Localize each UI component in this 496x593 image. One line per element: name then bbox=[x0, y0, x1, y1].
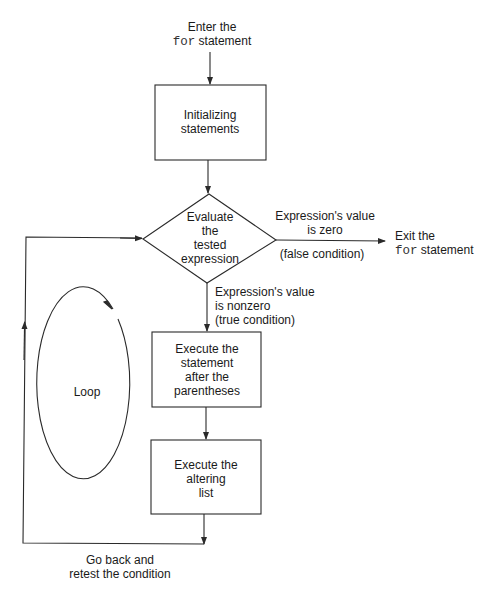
true-branch-line: is nonzero bbox=[215, 299, 315, 313]
alter-line: Execute the bbox=[174, 458, 237, 472]
alter-line: altering bbox=[174, 472, 237, 486]
body-line: statement bbox=[174, 356, 240, 370]
false-branch-label-top: Expression's value is zero bbox=[275, 209, 375, 237]
return-label: Go back and retest the condition bbox=[69, 553, 170, 581]
init-line: statements bbox=[181, 122, 240, 136]
entry-keyword: for bbox=[173, 35, 196, 49]
body-line: after the bbox=[174, 370, 240, 384]
false-branch-label-bottom: (false condition) bbox=[280, 247, 365, 261]
exit-keyword: for bbox=[395, 244, 418, 258]
entry-label: Enter the for statement bbox=[173, 20, 252, 49]
true-branch-line: Expression's value bbox=[215, 285, 315, 299]
entry-line1: Enter the bbox=[173, 20, 252, 34]
return-line: Go back and bbox=[69, 553, 170, 567]
return-into-test-arrow bbox=[120, 238, 142, 239]
loop-label: Loop bbox=[74, 385, 101, 399]
false-branch-line: (false condition) bbox=[280, 247, 365, 261]
body-line: Execute the bbox=[174, 342, 240, 356]
body-line: parentheses bbox=[174, 384, 240, 398]
alter-line: list bbox=[174, 486, 237, 500]
exit-arrow bbox=[276, 240, 385, 241]
exit-line2: statement bbox=[418, 243, 474, 257]
init-line: Initializing bbox=[181, 108, 240, 122]
loop-ellipse bbox=[37, 287, 130, 479]
true-branch-label: Expression's value is nonzero (true cond… bbox=[215, 285, 315, 327]
init-box-text: Initializing statements bbox=[181, 108, 240, 136]
return-line: retest the condition bbox=[69, 567, 170, 581]
exit-line1: Exit the bbox=[395, 229, 474, 243]
test-diamond-text: Evaluate the tested expression bbox=[181, 210, 239, 266]
true-branch-line: (true condition) bbox=[215, 313, 315, 327]
test-line: Evaluate bbox=[181, 210, 239, 224]
test-line: expression bbox=[181, 252, 239, 266]
entry-line2: statement bbox=[195, 34, 251, 48]
test-line: tested bbox=[181, 238, 239, 252]
exit-label: Exit the for statement bbox=[395, 229, 474, 258]
return-up-arrow bbox=[24, 322, 25, 360]
alter-box-text: Execute the altering list bbox=[174, 458, 237, 500]
false-branch-line: Expression's value bbox=[275, 209, 375, 223]
test-line: the bbox=[181, 224, 239, 238]
body-box-text: Execute the statement after the parenthe… bbox=[174, 342, 240, 398]
false-branch-line: is zero bbox=[275, 223, 375, 237]
